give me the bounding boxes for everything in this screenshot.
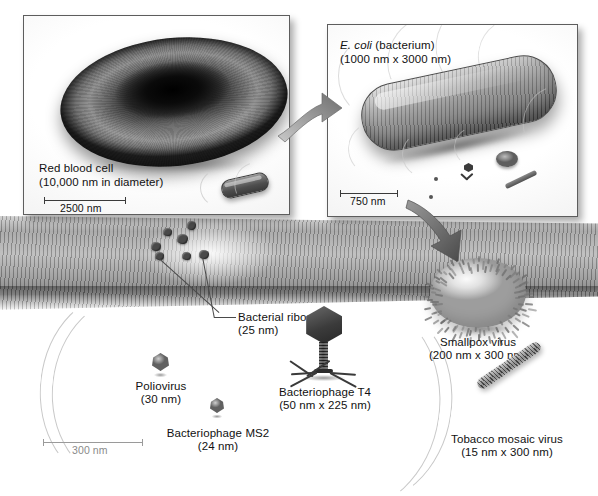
smallpox-spike	[525, 303, 533, 306]
t4-size-label: (50 nm x 225 nm)	[258, 399, 392, 413]
smallpox-spike	[515, 317, 522, 323]
ecoli-scale-bar-label: 750 nm	[350, 195, 386, 209]
smallpox-spike	[529, 296, 534, 298]
ribosome	[182, 252, 191, 260]
smallpox-spike	[461, 259, 465, 265]
smallpox-spike	[484, 266, 487, 273]
smallpox-spike	[433, 319, 440, 325]
rbc-scale-bar-label: 2500 nm	[60, 202, 102, 214]
smallpox-spike	[424, 316, 432, 321]
smallpox-spike	[513, 324, 520, 331]
smallpox-spike	[527, 308, 536, 312]
smallpox-spike	[474, 327, 476, 332]
smallpox-spike	[514, 312, 520, 317]
smallpox-spike	[504, 326, 510, 333]
ribosome	[187, 221, 196, 230]
ribosome-leader-line	[214, 317, 236, 318]
ms2-particle	[210, 398, 224, 413]
ribosome	[163, 228, 172, 236]
smallpox-spike	[513, 278, 521, 284]
smallpox-spike	[520, 308, 527, 312]
smallpox-spikes	[424, 252, 532, 334]
band-glow	[114, 208, 304, 298]
ms2-label: Bacteriophage MS2	[150, 427, 286, 441]
smallpox-spike	[522, 313, 530, 318]
smallpox-spike	[489, 264, 493, 272]
smallpox-spike	[518, 303, 524, 306]
tiny-virus-reference	[434, 177, 438, 181]
smallpox-spike	[495, 327, 499, 333]
ribosomes-size-label: (25 nm)	[238, 324, 278, 338]
rbc-size-label: (10,000 nm in diameter)	[39, 176, 163, 190]
smallpox-spike	[447, 319, 452, 324]
t4-shadow	[296, 374, 352, 382]
main-scale-bar-label: 300 nm	[72, 444, 108, 458]
smallpox-spike	[424, 307, 431, 310]
ecoli-label-rest: (bacterium)	[372, 39, 435, 51]
smallpox-spike	[487, 259, 490, 264]
ribosome	[199, 250, 209, 259]
smallpox-spike	[461, 325, 465, 330]
ms2-shadow	[210, 414, 224, 419]
smallpox-spike	[478, 256, 480, 262]
smallpox-spike	[487, 326, 490, 331]
tmv-label: Tobacco mosaic virus	[424, 433, 590, 447]
smallpox-spike	[460, 267, 465, 275]
smallpox-spike	[470, 267, 473, 274]
ribosome	[151, 242, 161, 251]
smallpox-spike	[519, 288, 527, 292]
ecoli-size-label: (1000 nm x 3000 nm)	[340, 53, 451, 67]
smallpox-spike	[514, 291, 520, 294]
ecoli-panel: E. coli (bacterium) (1000 nm x 3000 nm) …	[327, 24, 578, 217]
smallpox-spike	[435, 303, 443, 306]
ribosome	[177, 234, 188, 244]
red-blood-cell-illustration	[54, 26, 289, 177]
smallpox-spike	[521, 274, 527, 279]
magnify-arrow-to-ecoli	[276, 84, 346, 154]
rbc-label: Red blood cell	[39, 162, 113, 176]
ecoli-label: E. coli (bacterium)	[340, 39, 435, 53]
t4-label: Bacteriophage T4	[258, 386, 392, 400]
poliovirus-shadow	[152, 372, 169, 378]
poliovirus-label: Poliovirus	[110, 380, 212, 394]
smallpox-spike	[501, 269, 507, 277]
smallpox-spike	[495, 269, 500, 276]
smallpox-spike	[472, 259, 475, 264]
smallpox-spike	[423, 295, 430, 298]
poliovirus-size-label: (30 nm)	[110, 393, 212, 407]
tiny-smallpox-reference	[496, 151, 518, 167]
smallpox-spike	[477, 264, 479, 272]
ecoli-label-italic: E. coli	[340, 39, 372, 51]
smallpox-spike	[513, 307, 518, 311]
red-blood-cell-panel: Red blood cell (10,000 nm in diameter) 2…	[23, 15, 290, 215]
smallpox-spike	[435, 293, 443, 297]
smallpox-spike	[521, 321, 530, 327]
smallpox-spike	[514, 285, 521, 290]
smallpox-spike	[444, 327, 450, 334]
smallpox-spike	[450, 260, 455, 267]
smallpox-spike	[430, 301, 439, 303]
smallpox-spike	[437, 327, 444, 334]
smallpox-spike	[510, 264, 515, 270]
smallpox-spike	[524, 281, 529, 285]
smallpox-spike	[499, 321, 503, 326]
smallpox-spike	[518, 295, 525, 298]
tmv-size-label: (15 nm x 300 nm)	[424, 446, 590, 460]
ms2-size-label: (24 nm)	[150, 440, 286, 454]
